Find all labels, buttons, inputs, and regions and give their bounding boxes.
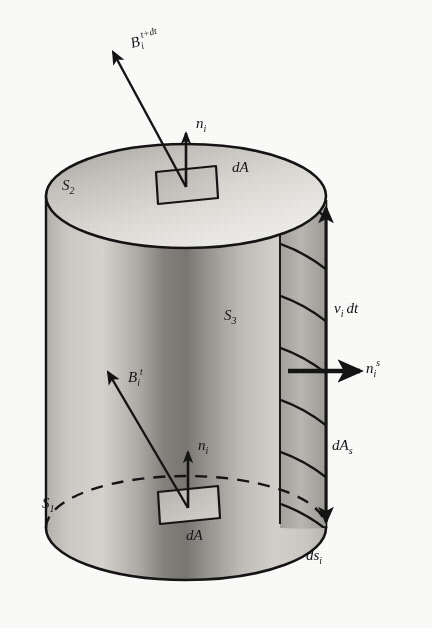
label-area-top: dA — [232, 159, 250, 175]
area-bottom-base: dA — [186, 527, 204, 543]
sweep-height-trail: dt — [346, 300, 359, 316]
svg-text:dAs: dAs — [332, 437, 353, 456]
label-b-field-future: Bit+dt — [128, 26, 161, 54]
sweep-height-sub: i — [341, 308, 344, 319]
surface-top-sub: 2 — [70, 185, 75, 196]
arc-length-sub: i — [319, 555, 322, 566]
normal-side-sup: s — [376, 358, 380, 368]
arc-length-base: ds — [306, 547, 320, 563]
svg-text:ni: ni — [196, 115, 207, 134]
cylinder-diagram: Bit+dt ni dA S2 S3 — [0, 0, 432, 628]
svg-text:vidt: vidt — [334, 300, 359, 319]
svg-text:nis: nis — [366, 358, 380, 379]
b-now-base: B — [128, 369, 137, 385]
normal-side-base: n — [366, 360, 374, 376]
label-arc-length: dsi — [306, 547, 322, 566]
b-now-sup: t — [140, 367, 143, 377]
normal-side-sub: i — [374, 368, 377, 379]
area-top-base: dA — [232, 159, 250, 175]
svg-text:Bit+dt: Bit+dt — [128, 26, 161, 54]
normal-bottom-sub: i — [206, 445, 209, 456]
label-area-bottom: dA — [186, 527, 204, 543]
normal-top-sub: i — [204, 123, 207, 134]
label-normal-side: nis — [366, 358, 380, 379]
b-future-sub: i — [139, 40, 145, 51]
normal-top-base: n — [196, 115, 204, 131]
label-normal-top: ni — [196, 115, 207, 134]
b-future-sup: t+dt — [139, 26, 158, 40]
b-now-sub: i — [137, 377, 140, 388]
surface-side-sub: 3 — [231, 315, 237, 326]
area-side-base: dA — [332, 437, 350, 453]
figure-root: Bit+dt ni dA S2 S3 — [0, 0, 432, 628]
svg-text:dsi: dsi — [306, 547, 322, 566]
surface-bottom-sub: 1 — [50, 503, 55, 514]
area-side-sub: s — [349, 445, 353, 456]
label-sweep-height: vidt — [334, 300, 359, 319]
label-area-side: dAs — [332, 437, 353, 456]
normal-bottom-base: n — [198, 437, 206, 453]
